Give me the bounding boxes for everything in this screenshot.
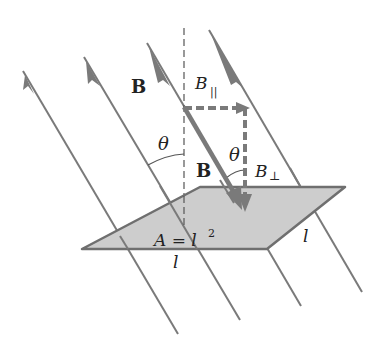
b-perp-label: B	[254, 161, 268, 181]
field-line-4-over	[290, 168, 300, 186]
area-label: A = l	[152, 230, 197, 250]
b-parallel-subscript: ||	[210, 85, 217, 99]
diagram-canvas: B B || θ θ B B ⊥ A = l 2 l l	[0, 0, 379, 354]
b-parallel-label: B	[194, 73, 208, 93]
theta-arc-right	[226, 170, 245, 178]
side-bottom-label: l	[173, 252, 178, 272]
theta-arc-left	[148, 154, 184, 165]
field-lines	[23, 30, 362, 334]
field-line-1	[23, 71, 178, 334]
theta-right-label: θ	[229, 144, 240, 165]
magnetic-flux-diagram: B B || θ θ B B ⊥ A = l 2 l l	[0, 0, 379, 354]
area-exponent: 2	[208, 227, 215, 240]
arrowhead-icon	[149, 47, 170, 86]
vector-b-label: B	[196, 160, 211, 181]
field-b-label: B	[131, 76, 146, 97]
arrowhead-icon	[23, 75, 34, 94]
side-right-label: l	[303, 226, 308, 246]
theta-left-label: θ	[158, 133, 169, 154]
b-perp-subscript: ⊥	[269, 169, 280, 183]
